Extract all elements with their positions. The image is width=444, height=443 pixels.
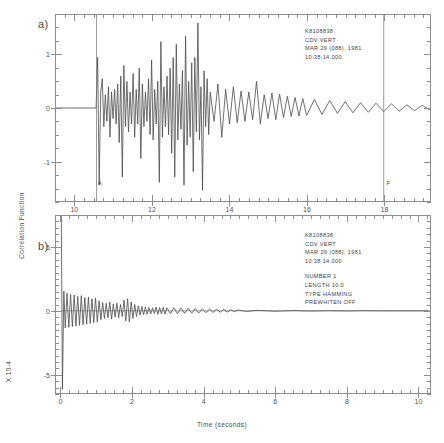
xtick-minor-bottom (275, 387, 276, 394)
xtick-minor-top (383, 215, 384, 219)
xtick-minor-top (248, 215, 249, 219)
xtick-label-a-1: 12 (148, 206, 156, 213)
xtick-minor-top (142, 14, 143, 18)
panel-b-correlation (55, 215, 431, 394)
xtick-minor-top (410, 215, 411, 219)
xtick-minor-top (186, 215, 187, 219)
annot-b-number: NUMBER 1 (305, 273, 337, 279)
ytick-minor-left (55, 221, 59, 222)
ytick-label-b-0: 5 (37, 243, 50, 250)
xtick-minor-bottom (288, 198, 289, 202)
xtick-minor-top (222, 215, 223, 219)
xtick-minor-top (302, 215, 303, 219)
ytick-minor-right (427, 317, 431, 318)
xtick-minor-top (326, 14, 327, 18)
ytick-minor-left (55, 27, 59, 28)
xtick-label-b-4: 8 (345, 398, 349, 405)
xtick-minor-bottom (375, 198, 376, 202)
xtick-minor-top (293, 215, 294, 219)
ytick-minor-right (427, 388, 431, 389)
ytick-minor-right (427, 381, 431, 382)
xtick-minor-bottom (248, 390, 249, 394)
panel-a-annotation-block: K8108838 CDV VERT MAR 29 (088), 1981 10:… (305, 27, 362, 61)
xtick-minor-top (210, 14, 211, 18)
ytick-major-a (51, 162, 55, 163)
y-axis-label: Correlation Function (18, 161, 25, 291)
xtick-minor-bottom (239, 198, 240, 202)
ytick-minor-right (424, 311, 431, 312)
xtick-minor-bottom (60, 387, 61, 394)
ytick-minor-right (427, 189, 431, 190)
annot-b-prewhiten: PREWHITEN OFF (305, 299, 356, 305)
xtick-minor-bottom (374, 390, 375, 394)
ytick-minor-right (427, 343, 431, 344)
ytick-minor-left (55, 202, 59, 203)
xtick-minor-bottom (220, 198, 221, 202)
ytick-minor-left (55, 148, 59, 149)
xtick-minor-top (278, 14, 279, 18)
ytick-minor-left (55, 41, 59, 42)
ytick-minor-left (55, 292, 59, 293)
ytick-major-b (51, 375, 55, 376)
xtick-minor-bottom (132, 387, 133, 394)
xtick-minor-bottom (133, 198, 134, 202)
xtick-minor-top (103, 14, 104, 18)
xtick-minor-bottom (384, 195, 385, 202)
ytick-minor-right (427, 148, 431, 149)
ytick-minor-left (55, 14, 59, 15)
ytick-minor-right (427, 241, 431, 242)
xtick-minor-bottom (171, 198, 172, 202)
xtick-minor-top (307, 14, 308, 21)
xtick-minor-bottom (114, 390, 115, 394)
xtick-minor-bottom (177, 390, 178, 394)
ytick-minor-right (427, 228, 431, 229)
xtick-minor-top (96, 215, 97, 219)
xtick-minor-bottom (78, 390, 79, 394)
xtick-minor-top (168, 215, 169, 219)
xtick-minor-top (356, 215, 357, 219)
panel-b-trace-svg (56, 216, 430, 393)
ytick-minor-right (427, 368, 431, 369)
ytick-minor-left (55, 368, 59, 369)
xtick-minor-bottom (186, 390, 187, 394)
xtick-minor-bottom (414, 198, 415, 202)
annot-b-channel: CDV VERT (305, 241, 336, 247)
xtick-minor-top (423, 14, 424, 18)
ytick-minor-left (55, 175, 59, 176)
xtick-minor-top (123, 215, 124, 219)
ytick-label-a-2: -1 (37, 158, 50, 165)
ytick-major-b (51, 247, 55, 248)
ytick-minor-right (427, 253, 431, 254)
xtick-minor-bottom (200, 198, 201, 202)
xtick-minor-bottom (338, 390, 339, 394)
xtick-minor-top (123, 14, 124, 18)
xtick-minor-bottom (213, 390, 214, 394)
xtick-minor-top (150, 215, 151, 219)
ytick-major-a (51, 108, 55, 109)
ytick-minor-left (55, 317, 59, 318)
ytick-minor-right (427, 285, 431, 286)
xtick-minor-top (84, 14, 85, 18)
xtick-minor-top (69, 215, 70, 219)
xtick-minor-bottom (257, 390, 258, 394)
xtick-minor-bottom (346, 198, 347, 202)
xtick-minor-top (320, 215, 321, 219)
ytick-minor-left (55, 228, 59, 229)
xtick-minor-bottom (297, 198, 298, 202)
annot-a-time: 10:38:14.000 (305, 54, 342, 60)
ytick-minor-right (427, 279, 431, 280)
xtick-minor-top (347, 215, 348, 222)
ytick-minor-right (427, 394, 431, 395)
ytick-minor-left (55, 81, 59, 82)
ytick-minor-right (427, 14, 431, 15)
xtick-minor-bottom (307, 195, 308, 202)
ytick-minor-left (55, 330, 59, 331)
xtick-minor-bottom (383, 390, 384, 394)
xtick-minor-top (392, 215, 393, 219)
ytick-minor-left (55, 394, 59, 395)
xtick-minor-bottom (355, 198, 356, 202)
xtick-minor-top (284, 215, 285, 219)
annot-b-time: 10:38:14.000 (305, 258, 342, 264)
annot-a-channel: CDV VERT (305, 37, 336, 43)
xtick-minor-top (239, 215, 240, 219)
